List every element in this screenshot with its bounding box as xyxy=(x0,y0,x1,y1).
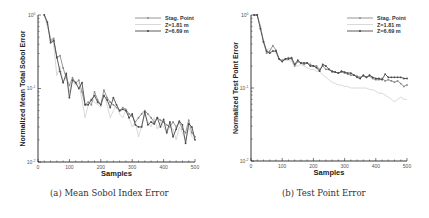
legend-entry: Z=1.81 m xyxy=(377,22,401,28)
chart-test-point-error: 010020030040050010-210-1100SamplesNormal… xyxy=(214,0,429,185)
legend-entry: Z=1.81 m xyxy=(165,22,189,28)
caption-b: (b) Test Point Error xyxy=(282,188,366,198)
y-tick-label: 10-2 xyxy=(240,158,249,164)
legend-entry: Z=6.69 m xyxy=(377,28,401,34)
legend-entry: Stag. Point xyxy=(377,15,406,21)
chart-panel-b: 010020030040050010-210-1100SamplesNormal… xyxy=(214,0,428,218)
y-tick-label: 10-1 xyxy=(27,85,36,91)
x-tick-label: 0 xyxy=(250,163,253,169)
x-tick-label: 400 xyxy=(159,164,168,170)
y-axis-label: Normalized Mean Total Sobol Error xyxy=(19,30,26,146)
x-axis-label: Samples xyxy=(314,168,345,177)
y-tick-label: 10-1 xyxy=(240,85,249,91)
legend-entry: Z=6.69 m xyxy=(165,28,189,34)
x-tick-label: 100 xyxy=(278,163,287,169)
chart-mean-sobol-error: 010020030040050010-210-1100SamplesNormal… xyxy=(0,0,214,185)
x-tick-label: 100 xyxy=(65,164,74,170)
legend: Stag. PointZ=1.81 mZ=6.69 m xyxy=(135,15,194,34)
x-tick-label: 0 xyxy=(37,164,40,170)
x-tick-label: 500 xyxy=(403,163,412,169)
y-axis-label: Normalized Test Point Error xyxy=(232,42,239,134)
caption-a: (a) Mean Sobol Index Error xyxy=(50,188,169,198)
y-tick-label: 10-2 xyxy=(27,159,36,165)
y-tick-label: 100 xyxy=(28,12,36,18)
x-tick-label: 500 xyxy=(191,164,200,170)
x-tick-label: 400 xyxy=(372,163,381,169)
legend-entry: Stag. Point xyxy=(165,15,194,21)
legend: Stag. PointZ=1.81 mZ=6.69 m xyxy=(347,15,406,34)
chart-panel-a: 010020030040050010-210-1100SamplesNormal… xyxy=(0,0,214,218)
y-tick-label: 100 xyxy=(241,12,249,18)
x-axis-label: Samples xyxy=(101,169,132,178)
